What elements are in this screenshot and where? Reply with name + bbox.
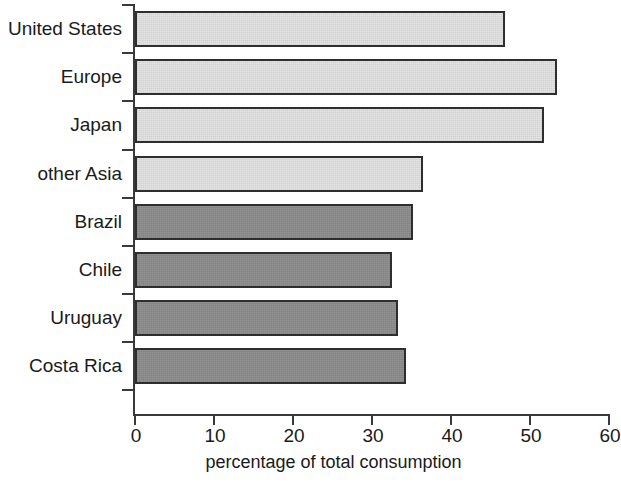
- category-label: Europe: [0, 59, 122, 95]
- y-axis-tick: [122, 149, 134, 151]
- y-axis-tick: [122, 52, 134, 54]
- category-label: Uruguay: [0, 300, 122, 336]
- y-axis-tick: [122, 197, 134, 199]
- bar: [135, 107, 544, 143]
- x-axis-tick: [450, 416, 452, 425]
- y-axis-tick: [122, 341, 134, 343]
- x-axis-title-text: percentage of total consumption: [159, 452, 461, 473]
- bar: [135, 59, 557, 95]
- x-axis-tick-label: 50: [501, 425, 561, 447]
- x-axis-tick-label: 0: [106, 425, 166, 447]
- x-axis-tick-label: 60: [580, 425, 621, 447]
- category-label: other Asia: [0, 156, 122, 192]
- bar: [135, 11, 505, 47]
- category-label: Chile: [0, 252, 122, 288]
- bar: [135, 300, 398, 336]
- y-axis-tick: [122, 293, 134, 295]
- x-axis-tick: [371, 416, 373, 425]
- x-axis-tick: [134, 416, 136, 425]
- category-label: Brazil: [0, 204, 122, 240]
- x-axis-tick: [213, 416, 215, 425]
- y-axis-tick: [122, 100, 134, 102]
- category-label: United States: [0, 11, 122, 47]
- x-axis-tick-label: 40: [422, 425, 482, 447]
- x-axis-tick-label: 10: [185, 425, 245, 447]
- x-axis-tick: [608, 416, 610, 425]
- category-label: Japan: [0, 107, 122, 143]
- y-axis-tick: [122, 245, 134, 247]
- bar: [135, 156, 423, 192]
- x-axis-tick: [529, 416, 531, 425]
- bar: [135, 348, 406, 384]
- category-label: Costa Rica: [0, 348, 122, 384]
- x-axis-tick-label: 20: [264, 425, 324, 447]
- bar-chart: United StatesEuropeJapanother AsiaBrazil…: [0, 0, 621, 483]
- y-axis-tick: [122, 4, 134, 6]
- bar: [135, 252, 392, 288]
- x-axis-title: percentage of total consumption: [0, 452, 621, 473]
- bar: [135, 204, 413, 240]
- y-axis-tick: [122, 389, 134, 391]
- x-axis-tick-label: 30: [343, 425, 403, 447]
- x-axis-tick: [292, 416, 294, 425]
